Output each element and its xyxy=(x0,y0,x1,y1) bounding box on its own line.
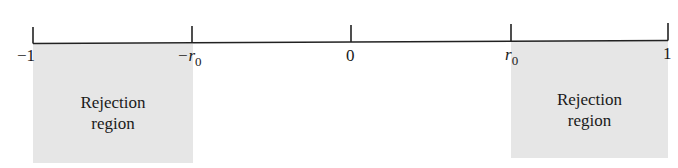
number-line-diagram: Rejection region Rejection region −1 −r0… xyxy=(0,0,678,168)
tick-label-zero: 0 xyxy=(346,47,355,65)
tick-label-minus-r0-main: −r xyxy=(177,46,195,65)
tick-label-minus-r0-sub: 0 xyxy=(195,54,202,69)
tick-label-minus-one: −1 xyxy=(17,47,35,65)
axis-line xyxy=(0,0,678,168)
tick-label-minus-r0: −r0 xyxy=(177,47,202,71)
tick-label-r0-sub: 0 xyxy=(512,53,519,68)
tick-label-r0: r0 xyxy=(505,46,518,70)
tick-label-one: 1 xyxy=(663,45,672,63)
tick-label-r0-main: r xyxy=(505,45,512,64)
